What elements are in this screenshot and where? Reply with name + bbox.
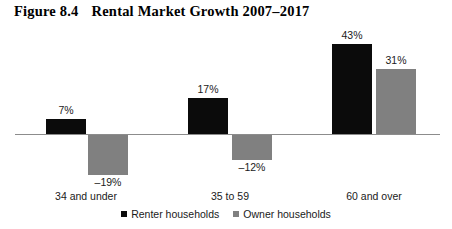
legend-swatch-icon-renter [121,211,127,217]
category-label-60-and-over: 60 and over [314,191,434,202]
category-label-35-to-59: 35 to 59 [170,191,290,202]
bar-renter-60-and-over [332,44,372,134]
legend-item-renter-households: Renter households [121,208,219,220]
bar-chart-plot-area: 7% –19% 17% –12% 43% 31% 34 and under 35… [0,26,452,191]
legend-swatch-icon-owner [233,211,239,217]
value-label-owner-35-to-59: –12% [227,162,277,173]
bar-owner-35-to-59 [232,135,272,160]
legend-label-owner: Owner households [243,208,331,220]
zero-axis-line [15,134,440,135]
value-label-owner-60-and-over: 31% [376,55,416,66]
category-label-34-and-under: 34 and under [26,191,146,202]
figure-number: Figure 8.4 [14,3,79,19]
chart-legend: Renter households Owner households [0,208,452,220]
figure-title: Figure 8.4Rental Market Growth 2007–2017 [14,3,310,20]
value-label-renter-35-to-59: 17% [188,84,228,95]
bar-owner-60-and-over [376,69,416,134]
value-label-renter-34-and-under: 7% [46,105,86,116]
value-label-renter-60-and-over: 43% [332,30,372,41]
page-title: Rental Market Growth 2007–2017 [92,3,310,19]
legend-label-renter: Renter households [131,208,219,220]
bar-owner-34-and-under [88,135,128,175]
bar-renter-34-and-under [46,119,86,134]
bar-renter-35-to-59 [188,98,228,134]
value-label-owner-34-and-under: –19% [83,177,133,188]
legend-item-owner-households: Owner households [233,208,331,220]
